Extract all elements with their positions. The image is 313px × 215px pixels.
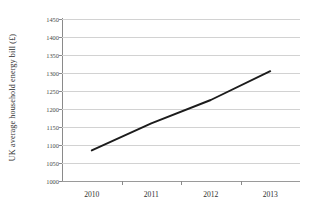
y-axis-tick-label: 1350 xyxy=(46,52,59,59)
plot-area xyxy=(62,19,300,181)
y-axis-tick-label: 1150 xyxy=(46,124,59,131)
y-axis-tick-label: 1200 xyxy=(46,106,59,113)
y-axis-tick-label: 1300 xyxy=(46,70,59,77)
y-axis-tick-label: 1000 xyxy=(46,178,59,185)
series-polyline xyxy=(92,71,271,150)
y-axis-tick-label: 1050 xyxy=(46,160,59,167)
x-axis-tick-mark xyxy=(241,181,242,185)
y-axis-title: UK average household energy bill (£) xyxy=(0,0,26,195)
x-axis-tick-labels: 2010201120122013 xyxy=(62,190,300,206)
y-axis-tick-label: 1100 xyxy=(46,142,59,149)
x-axis-tick-label: 2013 xyxy=(263,190,278,199)
x-axis-tick-mark xyxy=(181,181,182,185)
x-axis-tick-label: 2011 xyxy=(144,190,159,199)
line-chart: UK average household energy bill (£) 145… xyxy=(0,0,313,215)
y-axis-title-label: UK average household energy bill (£) xyxy=(9,34,18,161)
x-axis-tick-label: 2010 xyxy=(84,190,99,199)
x-axis-tick-label: 2012 xyxy=(203,190,218,199)
y-axis-tick-label: 1400 xyxy=(46,34,59,41)
y-axis-tick-label: 1450 xyxy=(46,16,59,23)
y-axis-tick-label: 1250 xyxy=(46,88,59,95)
series-line xyxy=(62,19,300,181)
y-axis-tick-mark xyxy=(59,181,62,182)
x-axis-tick-mark xyxy=(122,181,123,185)
y-axis-tick-labels: 1450140013501300125012001150110010501000 xyxy=(26,19,62,181)
